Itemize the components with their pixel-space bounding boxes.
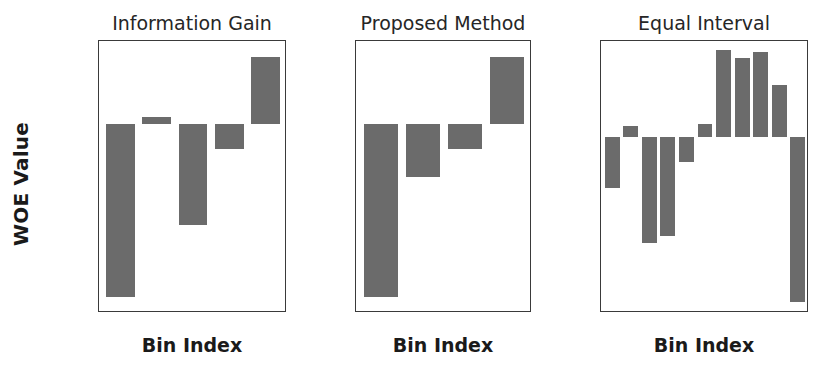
x-tick-label: 10 bbox=[791, 311, 806, 312]
bar bbox=[448, 124, 482, 149]
x-tick-label: 1 bbox=[153, 311, 160, 312]
x-tick-label: 4 bbox=[262, 311, 269, 312]
x-tick-label: 8 bbox=[757, 311, 764, 312]
bar bbox=[623, 126, 638, 137]
x-tick-label: 1 bbox=[419, 311, 426, 312]
bar bbox=[660, 137, 675, 236]
x-axis-label: Bin Index bbox=[600, 334, 808, 356]
bar bbox=[679, 137, 694, 163]
bar bbox=[406, 124, 440, 177]
x-tick-mark bbox=[797, 311, 798, 312]
y-tick-mark bbox=[355, 194, 356, 195]
y-tick-mark bbox=[355, 229, 356, 230]
panel-title: Proposed Method bbox=[355, 12, 531, 34]
bar bbox=[179, 124, 208, 225]
x-tick-mark bbox=[611, 311, 612, 312]
y-tick-mark bbox=[600, 283, 601, 284]
y-tick-mark bbox=[98, 265, 99, 266]
x-tick-mark bbox=[265, 311, 266, 312]
x-tick-label: 4 bbox=[683, 311, 690, 312]
y-tick-mark bbox=[600, 136, 601, 137]
y-tick-mark bbox=[600, 173, 601, 174]
panel-proposed-method: Proposed Method 0.40.20.0-0.2-0.4-0.6-0.… bbox=[355, 0, 531, 367]
y-tick-mark bbox=[98, 159, 99, 160]
y-tick-mark bbox=[98, 123, 99, 124]
x-axis-label: Bin Index bbox=[98, 334, 286, 356]
bar bbox=[605, 137, 620, 188]
figure-canvas: WOE Value Information Gain 0.40.20.0-0.2… bbox=[0, 0, 839, 367]
x-tick-mark bbox=[464, 311, 465, 312]
y-tick-mark bbox=[600, 62, 601, 63]
x-tick-label: 3 bbox=[225, 311, 232, 312]
x-tick-label: 6 bbox=[720, 311, 727, 312]
bar bbox=[106, 124, 135, 297]
x-tick-mark bbox=[686, 311, 687, 312]
x-tick-mark bbox=[422, 311, 423, 312]
y-tick-mark bbox=[355, 123, 356, 124]
bar bbox=[364, 124, 398, 297]
x-tick-mark bbox=[723, 311, 724, 312]
y-tick-mark bbox=[600, 209, 601, 210]
x-tick-mark bbox=[760, 311, 761, 312]
bar bbox=[642, 137, 657, 244]
bar bbox=[251, 57, 280, 124]
y-axis-label-text: WOE Value bbox=[9, 121, 33, 245]
bar bbox=[142, 117, 171, 124]
bar bbox=[698, 124, 713, 137]
bar bbox=[735, 58, 750, 137]
bar-series bbox=[601, 41, 807, 311]
panel-equal-interval: Equal Interval 0.40.20.0-0.2-0.4-0.6-0.8… bbox=[600, 0, 808, 367]
x-tick-label: 0 bbox=[117, 311, 124, 312]
x-tick-label: 0 bbox=[608, 311, 615, 312]
y-tick-mark bbox=[355, 159, 356, 160]
y-tick-mark bbox=[98, 53, 99, 54]
x-tick-mark bbox=[649, 311, 650, 312]
panel-title: Information Gain bbox=[98, 12, 286, 34]
x-tick-mark bbox=[228, 311, 229, 312]
x-tick-label: 0 bbox=[377, 311, 384, 312]
plot-area: 0.40.20.0-0.2-0.4-0.6-0.8-1.001234 bbox=[98, 40, 286, 312]
panel-title: Equal Interval bbox=[600, 12, 808, 34]
y-tick-mark bbox=[98, 300, 99, 301]
bar-series bbox=[356, 41, 530, 311]
y-tick-mark bbox=[600, 99, 601, 100]
y-tick-mark bbox=[600, 246, 601, 247]
x-tick-label: 2 bbox=[646, 311, 653, 312]
bar bbox=[772, 85, 787, 136]
bar bbox=[716, 50, 731, 136]
y-tick-mark bbox=[355, 265, 356, 266]
bar bbox=[215, 124, 244, 149]
bar-series bbox=[99, 41, 285, 311]
y-tick-mark bbox=[355, 88, 356, 89]
plot-area: 0.40.20.0-0.2-0.4-0.6-0.8-1.00123 bbox=[355, 40, 531, 312]
bar bbox=[790, 137, 805, 302]
x-tick-mark bbox=[380, 311, 381, 312]
x-tick-mark bbox=[192, 311, 193, 312]
x-tick-label: 3 bbox=[503, 311, 510, 312]
panel-information-gain: Information Gain 0.40.20.0-0.2-0.4-0.6-0… bbox=[98, 0, 286, 367]
x-tick-label: 2 bbox=[189, 311, 196, 312]
y-axis-label: WOE Value bbox=[6, 0, 36, 367]
y-tick-mark bbox=[355, 300, 356, 301]
y-tick-mark bbox=[355, 53, 356, 54]
x-tick-mark bbox=[120, 311, 121, 312]
plot-area: 0.40.20.0-0.2-0.4-0.6-0.80246810 bbox=[600, 40, 808, 312]
x-tick-mark bbox=[506, 311, 507, 312]
y-tick-mark bbox=[98, 194, 99, 195]
y-tick-mark bbox=[98, 88, 99, 89]
x-tick-label: 2 bbox=[461, 311, 468, 312]
bar bbox=[490, 57, 524, 124]
bar bbox=[753, 52, 768, 137]
x-axis-label: Bin Index bbox=[355, 334, 531, 356]
x-tick-mark bbox=[156, 311, 157, 312]
y-tick-mark bbox=[98, 229, 99, 230]
